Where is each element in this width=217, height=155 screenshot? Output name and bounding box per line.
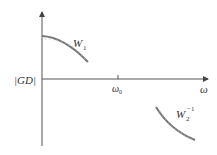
- svg-text:W: W: [73, 37, 83, 49]
- omega0-label: ω 0: [112, 83, 122, 95]
- w2-inverse-label: W 2 −1: [176, 105, 195, 123]
- svg-text:0: 0: [119, 89, 122, 95]
- diagram-canvas: |GD| ω 0 ω W 1 W 2 −1: [0, 0, 217, 155]
- svg-text:ω: ω: [112, 83, 119, 94]
- svg-text:1: 1: [83, 44, 87, 52]
- svg-text:W: W: [176, 108, 186, 120]
- x-axis-label: ω: [200, 83, 208, 95]
- svg-text:2: 2: [186, 115, 190, 123]
- y-axis-label: |GD|: [14, 74, 36, 86]
- svg-text:−1: −1: [187, 105, 195, 113]
